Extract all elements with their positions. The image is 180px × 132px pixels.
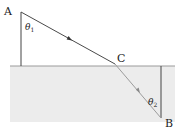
angle-label-theta1: θ1	[25, 22, 34, 33]
theta1-subscript: 1	[30, 26, 34, 33]
theta2-subscript: 2	[153, 101, 157, 108]
refraction-diagram: A C B θ1 θ2	[0, 0, 180, 132]
point-label-c: C	[117, 52, 125, 65]
lower-medium-region	[10, 66, 175, 122]
arrowhead-ac-icon	[67, 36, 72, 41]
point-label-a: A	[3, 5, 13, 18]
point-label-b: B	[165, 117, 173, 130]
